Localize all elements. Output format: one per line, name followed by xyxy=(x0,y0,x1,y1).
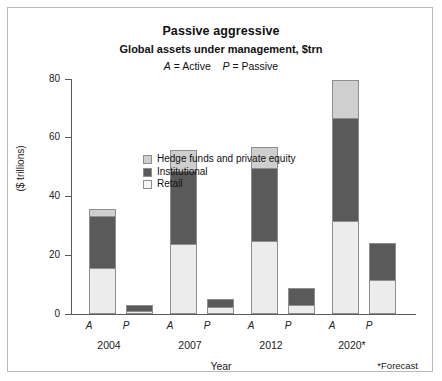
x-label-2007-active: A xyxy=(155,320,185,331)
segment-hedge-pe xyxy=(90,210,115,217)
chart-legend: Hedge funds and private equity Instituti… xyxy=(143,153,295,191)
legend-item-retail: Retail xyxy=(143,178,295,190)
bar-2012-passive[interactable] xyxy=(288,288,315,314)
key-p-word: = Passive xyxy=(232,60,278,72)
legend-item-hedge-pe: Hedge funds and private equity xyxy=(143,153,295,165)
segment-institutional xyxy=(333,119,358,222)
legend-swatch-icon xyxy=(143,180,152,189)
bar-2020-passive[interactable] xyxy=(369,243,396,314)
bar-2020-active[interactable] xyxy=(332,80,359,314)
bar-2004-active[interactable] xyxy=(89,209,116,314)
x-label-2012-passive: P xyxy=(273,320,303,331)
x-axis-title: Year xyxy=(8,360,434,372)
legend-swatch-icon xyxy=(143,168,152,177)
y-axis-title: ($ trillions) xyxy=(15,84,26,254)
legend-swatch-icon xyxy=(143,155,152,164)
legend-label: Hedge funds and private equity xyxy=(157,153,295,165)
key-p-letter: P xyxy=(222,60,229,72)
chart-key-note: A = Active P = Passive xyxy=(8,60,434,72)
y-tick-label-80: 80 xyxy=(26,73,60,84)
x-label-2004-active: A xyxy=(74,320,104,331)
x-group-label-2012: 2012 xyxy=(236,339,306,351)
key-a-word: = Active xyxy=(174,60,211,72)
x-group-label-2020: 2020* xyxy=(317,339,387,351)
y-tick-label-0: 0 xyxy=(26,308,60,319)
legend-item-institutional: Institutional xyxy=(143,166,295,178)
segment-retail xyxy=(127,312,152,314)
segment-retail xyxy=(333,222,358,313)
segment-retail xyxy=(208,308,233,313)
chart-frame: Passive aggressive Global assets under m… xyxy=(7,7,433,372)
bar-2004-passive[interactable] xyxy=(126,305,153,314)
chart-subtitle: Global assets under management, $trn xyxy=(8,43,434,55)
segment-retail xyxy=(370,281,395,313)
y-tick-label-60: 60 xyxy=(26,131,60,142)
x-label-2012-active: A xyxy=(236,320,266,331)
y-tick-0 xyxy=(65,314,71,315)
key-a-letter: A xyxy=(164,60,171,72)
x-label-2004-passive: P xyxy=(111,320,141,331)
x-group-label-2007: 2007 xyxy=(155,339,225,351)
forecast-footnote: *Forecast xyxy=(377,360,418,371)
segment-institutional xyxy=(370,244,395,281)
segment-institutional xyxy=(90,217,115,269)
y-tick-label-40: 40 xyxy=(26,190,60,201)
legend-label: Retail xyxy=(157,178,183,190)
legend-label: Institutional xyxy=(157,166,208,178)
chart-title: Passive aggressive xyxy=(8,24,434,38)
x-group-label-2004: 2004 xyxy=(74,339,144,351)
x-label-2020-passive: P xyxy=(354,320,384,331)
segment-retail xyxy=(289,306,314,313)
segment-institutional xyxy=(289,289,314,305)
segment-retail xyxy=(171,245,196,313)
plot-area: Hedge funds and private equity Instituti… xyxy=(71,79,416,314)
segment-retail xyxy=(252,242,277,313)
y-tick-label-20: 20 xyxy=(26,249,60,260)
segment-institutional xyxy=(208,300,233,308)
x-label-2007-passive: P xyxy=(192,320,222,331)
segment-hedge-pe xyxy=(333,81,358,119)
bar-2007-passive[interactable] xyxy=(207,299,234,314)
x-axis-line xyxy=(71,314,416,315)
segment-retail xyxy=(90,269,115,313)
x-label-2020-active: A xyxy=(317,320,347,331)
